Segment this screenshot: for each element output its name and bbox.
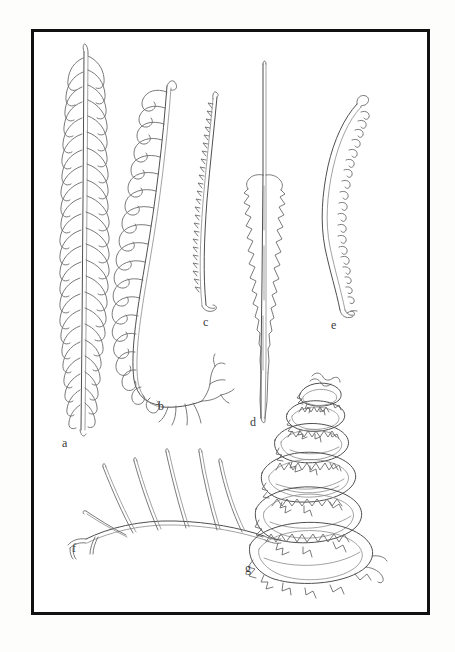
figure-label-e: e xyxy=(331,319,336,331)
figure-g-drawing xyxy=(248,373,387,598)
figure-label-d: d xyxy=(250,416,256,428)
figure-c-drawing xyxy=(193,92,218,312)
figure-label-a: a xyxy=(62,437,67,449)
figure-label-g: g xyxy=(245,562,251,574)
figure-e-drawing xyxy=(322,95,369,317)
figure-label-b: b xyxy=(158,400,164,412)
illustration-plate: .ln { fill:none; stroke:#6b6b6b; stroke-… xyxy=(0,0,455,652)
figure-label-f: f xyxy=(72,542,76,554)
figure-d-drawing xyxy=(244,61,285,423)
figure-f-drawing xyxy=(68,449,281,559)
figure-b-drawing xyxy=(112,81,234,425)
figure-drawing-canvas: .ln { fill:none; stroke:#6b6b6b; stroke-… xyxy=(0,0,455,652)
figure-a-drawing xyxy=(60,44,109,436)
figure-label-c: c xyxy=(203,316,208,328)
